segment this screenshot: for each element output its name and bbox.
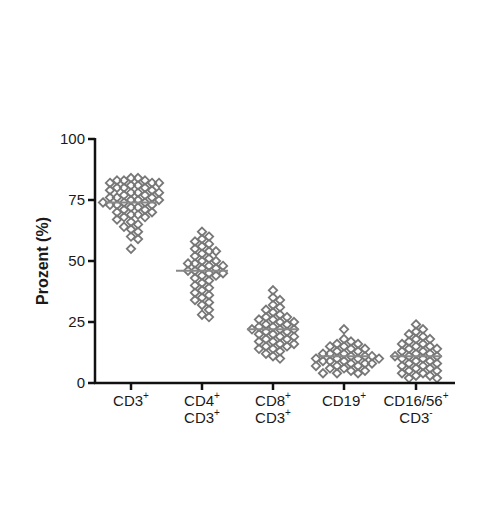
data-point	[312, 362, 320, 370]
x-category-label: CD3-	[399, 407, 432, 426]
x-category-label: CD16/56+	[383, 390, 448, 409]
data-point	[340, 325, 348, 333]
data-point	[212, 247, 220, 255]
y-axis-ticks: 0255075100	[60, 130, 95, 391]
data-point	[368, 359, 376, 367]
data-point	[333, 369, 341, 377]
x-category-label: CD3+	[255, 407, 291, 426]
x-axis-ticks: CD3+CD4+CD3+CD8+CD3+CD19+CD16/56+CD3-	[113, 383, 449, 426]
y-tick-label: 100	[60, 130, 85, 147]
data-point	[127, 245, 135, 253]
dot-plot-chart: 0255075100 CD3+CD4+CD3+CD8+CD3+CD19+CD16…	[0, 0, 501, 514]
data-point	[155, 179, 163, 187]
mean-lines	[105, 202, 442, 356]
data-points	[99, 174, 441, 382]
data-point	[319, 369, 327, 377]
x-category-label: CD19+	[322, 390, 366, 409]
x-category-label: CD3+	[184, 407, 220, 426]
y-tick-label: 50	[68, 252, 85, 269]
x-category-label: CD3+	[113, 390, 149, 409]
y-tick-label: 0	[77, 374, 85, 391]
y-tick-label: 75	[68, 191, 85, 208]
y-axis-label: Prozent (%)	[34, 217, 51, 305]
y-tick-label: 25	[68, 313, 85, 330]
